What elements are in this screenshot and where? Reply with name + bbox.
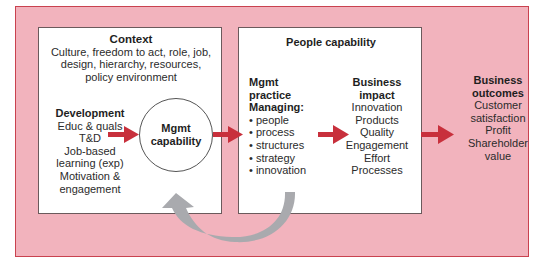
arrow-right-icon <box>318 125 349 144</box>
arrow-right-icon <box>108 126 139 143</box>
diagram-arrows <box>0 0 542 269</box>
arrow-right-icon <box>213 126 243 143</box>
feedback-curved-arrow-icon <box>162 192 295 242</box>
arrow-right-icon <box>421 125 454 144</box>
